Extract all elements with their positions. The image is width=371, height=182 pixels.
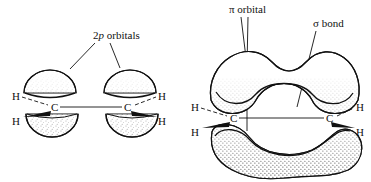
hydrogen-upper-left-label: H	[12, 90, 20, 102]
hydrogen-lower-left-label: H	[191, 126, 199, 138]
hydrogen-lower-right-label: H	[356, 126, 364, 138]
pi-orbital-label: π orbital	[229, 3, 266, 15]
hydrogen-lower-left-label: H	[12, 115, 20, 127]
hydrogen-upper-right-label: H	[158, 90, 166, 102]
p-orbitals-label: 2p orbitals	[93, 29, 140, 41]
ethylene-orbital-diagram: 2p orbitals	[0, 0, 371, 182]
carbon-right-label: C	[124, 101, 131, 113]
sigma-bond-label: σ bond	[313, 17, 344, 29]
hydrogen-upper-right-label: H	[356, 101, 364, 113]
p-orbitals-label-suffix: orbitals	[104, 29, 140, 41]
hydrogen-upper-left-label: H	[191, 101, 199, 113]
hydrogen-lower-right-label: H	[158, 115, 166, 127]
carbon-left-label: C	[51, 101, 58, 113]
carbon-left-label: C	[230, 112, 237, 124]
carbon-right-label: C	[326, 112, 333, 124]
